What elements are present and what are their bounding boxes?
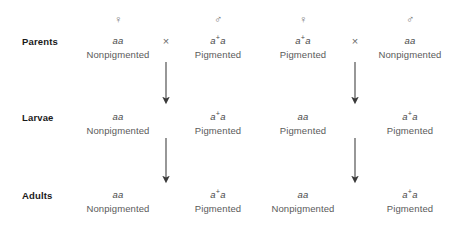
- inheritance-arrows-layer: [0, 0, 466, 232]
- maternal-effect-cross-diagram: Parents Larvae Adults ♀ ♂ ♀ ♂ aa Nonpigm…: [0, 0, 466, 232]
